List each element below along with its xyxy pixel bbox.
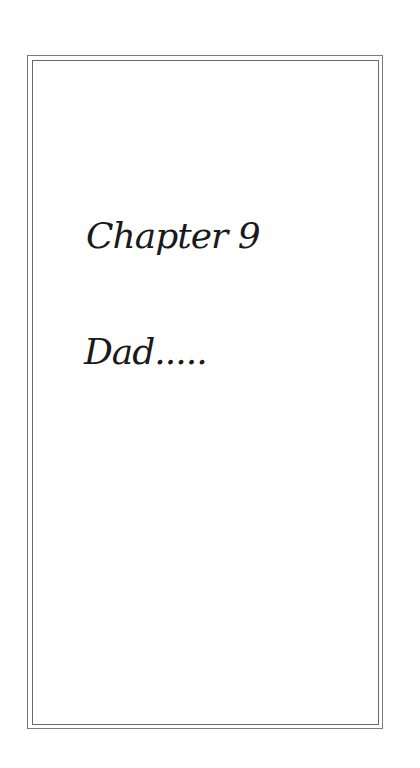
chapter-heading: Chapter 9 <box>86 212 260 260</box>
page-inner-border <box>32 60 379 725</box>
chapter-subtitle: Dad..... <box>84 328 207 376</box>
